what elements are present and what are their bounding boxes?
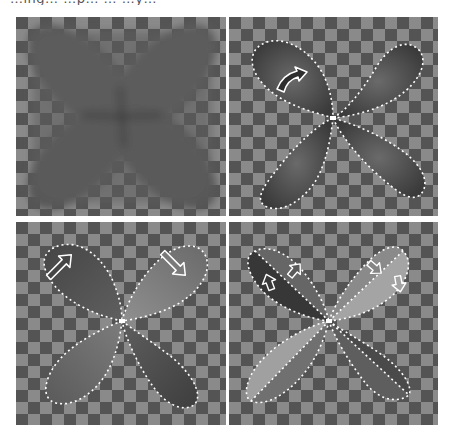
panel-top-left (16, 17, 226, 216)
panel-top-right (229, 17, 438, 216)
four-lobe-split-figure (229, 222, 438, 425)
panel-bottom-right (229, 222, 438, 425)
four-lobe-outlined-figure (229, 17, 438, 216)
four-lobe-arrows-figure (16, 222, 226, 425)
four-lobe-blurred-figure (16, 17, 226, 216)
panel-bottom-left (16, 222, 226, 425)
figure-caption-cutoff: …ing… …p… … …y… (10, 0, 450, 5)
